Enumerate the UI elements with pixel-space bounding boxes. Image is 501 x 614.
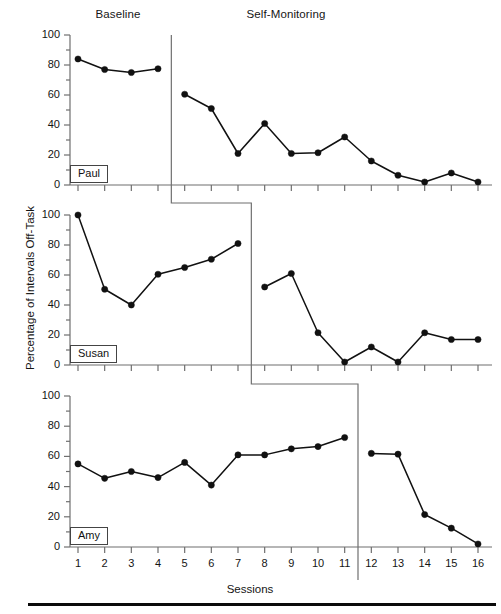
phase-header-baseline: Baseline: [88, 8, 148, 20]
panel-label-amy: Amy: [70, 527, 108, 545]
data-point-paul-s14: [422, 179, 428, 185]
data-point-susan-s4: [155, 271, 161, 277]
data-point-amy-s2: [102, 475, 108, 481]
y-tick-label-amy-80: 80: [20, 419, 60, 431]
data-line-paul-self-monitoring: [185, 94, 478, 182]
data-point-amy-s9: [288, 446, 294, 452]
x-tick-label-8: 8: [255, 557, 275, 569]
x-tick-label-5: 5: [175, 557, 195, 569]
x-tick-label-6: 6: [201, 557, 221, 569]
data-point-susan-s5: [182, 264, 188, 270]
x-axis-title: Sessions: [190, 583, 310, 595]
data-point-amy-s15: [448, 525, 454, 531]
y-tick-label-paul-100: 100: [20, 28, 60, 40]
x-tick-label-11: 11: [335, 557, 355, 569]
y-tick-label-paul-0: 0: [20, 178, 60, 190]
bottom-rule: [28, 603, 496, 606]
data-point-susan-s2: [102, 286, 108, 292]
data-point-susan-s13: [395, 359, 401, 365]
y-tick-label-paul-40: 40: [20, 118, 60, 130]
data-point-paul-s16: [475, 179, 481, 185]
data-point-susan-s10: [315, 330, 321, 336]
y-tick-label-amy-100: 100: [20, 389, 60, 401]
data-point-amy-s4: [155, 474, 161, 480]
x-tick-label-4: 4: [148, 557, 168, 569]
y-tick-label-paul-80: 80: [20, 58, 60, 70]
data-point-paul-s3: [128, 69, 134, 75]
data-point-paul-s8: [262, 120, 268, 126]
panel-label-paul: Paul: [70, 165, 108, 183]
y-tick-label-paul-60: 60: [20, 88, 60, 100]
data-point-susan-s3: [128, 302, 134, 308]
y-tick-label-amy-0: 0: [20, 540, 60, 552]
data-point-susan-s8: [262, 284, 268, 290]
data-point-paul-s4: [155, 66, 161, 72]
x-tick-label-3: 3: [121, 557, 141, 569]
y-tick-label-amy-20: 20: [20, 510, 60, 522]
x-tick-label-13: 13: [388, 557, 408, 569]
y-tick-label-susan-100: 100: [20, 208, 60, 220]
phase-header-self-monitoring: Self-Monitoring: [230, 8, 342, 20]
x-tick-label-12: 12: [361, 557, 381, 569]
data-point-paul-s5: [182, 91, 188, 97]
x-tick-label-2: 2: [95, 557, 115, 569]
data-point-amy-s10: [315, 443, 321, 449]
x-tick-label-9: 9: [281, 557, 301, 569]
data-point-susan-s7: [235, 240, 241, 246]
data-point-amy-s8: [262, 452, 268, 458]
data-point-paul-s15: [448, 170, 454, 176]
data-line-amy-baseline: [78, 438, 345, 486]
x-tick-label-1: 1: [68, 557, 88, 569]
data-point-susan-s12: [368, 344, 374, 350]
x-tick-label-15: 15: [441, 557, 461, 569]
data-point-amy-s14: [422, 511, 428, 517]
y-tick-label-paul-20: 20: [20, 148, 60, 160]
y-tick-label-amy-60: 60: [20, 449, 60, 461]
data-point-susan-s15: [448, 336, 454, 342]
data-point-paul-s13: [395, 172, 401, 178]
multiple-baseline-figure: Baseline Self-Monitoring Paul Susan Amy …: [0, 0, 501, 614]
data-point-amy-s16: [475, 541, 481, 547]
data-point-amy-s7: [235, 452, 241, 458]
data-point-susan-s1: [75, 212, 81, 218]
data-point-amy-s3: [128, 468, 134, 474]
data-line-paul-baseline: [78, 59, 158, 73]
x-tick-label-16: 16: [468, 557, 488, 569]
x-tick-label-14: 14: [415, 557, 435, 569]
data-point-paul-s2: [102, 66, 108, 72]
y-tick-label-susan-40: 40: [20, 298, 60, 310]
data-point-paul-s11: [342, 134, 348, 140]
y-tick-label-susan-20: 20: [20, 328, 60, 340]
data-point-paul-s1: [75, 56, 81, 62]
data-point-amy-s5: [182, 459, 188, 465]
data-point-paul-s10: [315, 150, 321, 156]
x-tick-label-10: 10: [308, 557, 328, 569]
data-point-paul-s9: [288, 150, 294, 156]
data-point-paul-s6: [208, 105, 214, 111]
chart-canvas: [0, 0, 501, 614]
data-point-susan-s16: [475, 336, 481, 342]
data-point-amy-s11: [342, 434, 348, 440]
data-point-susan-s9: [288, 270, 294, 276]
data-point-susan-s14: [422, 330, 428, 336]
y-tick-label-amy-40: 40: [20, 480, 60, 492]
data-point-paul-s12: [368, 158, 374, 164]
data-point-amy-s12: [368, 450, 374, 456]
y-tick-label-susan-80: 80: [20, 238, 60, 250]
data-point-paul-s7: [235, 150, 241, 156]
phase-line-connector-susan: [251, 365, 358, 396]
data-line-amy-self-monitoring: [371, 453, 478, 544]
data-point-amy-s13: [395, 451, 401, 457]
data-point-amy-s1: [75, 461, 81, 467]
panel-label-susan: Susan: [70, 345, 117, 363]
data-point-susan-s11: [342, 359, 348, 365]
y-tick-label-susan-0: 0: [20, 358, 60, 370]
y-tick-label-susan-60: 60: [20, 268, 60, 280]
data-point-susan-s6: [208, 256, 214, 262]
data-point-amy-s6: [208, 482, 214, 488]
x-tick-label-7: 7: [228, 557, 248, 569]
